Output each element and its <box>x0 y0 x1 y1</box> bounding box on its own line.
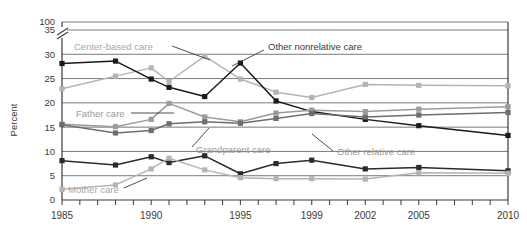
data-point-marker <box>59 86 64 91</box>
data-point-marker <box>149 76 154 81</box>
data-point-marker <box>149 117 154 122</box>
data-point-marker <box>363 82 368 87</box>
svg-text:0: 0 <box>50 194 55 205</box>
annotation-label: Center-based care <box>74 41 153 52</box>
x-axis-tick-labels: 1985199019951999200220052010 <box>51 210 520 221</box>
data-point-marker <box>309 176 314 181</box>
annotation-label: Grandparent care <box>196 144 270 155</box>
data-point-marker <box>202 114 207 119</box>
svg-text:20: 20 <box>44 97 55 108</box>
data-point-marker <box>149 128 154 133</box>
data-point-marker <box>416 107 421 112</box>
series-markers <box>59 54 510 192</box>
series-line-grandparent-care <box>62 113 508 133</box>
data-point-marker <box>273 176 278 181</box>
data-point-marker <box>238 76 243 81</box>
annotation-label: Mother care <box>68 184 119 195</box>
data-point-marker <box>273 161 278 166</box>
series-line-center-based-care <box>62 56 508 97</box>
data-point-marker <box>416 123 421 128</box>
data-point-marker <box>166 121 171 126</box>
data-point-marker <box>273 116 278 121</box>
data-point-marker <box>238 121 243 126</box>
data-point-marker <box>363 114 368 119</box>
svg-text:100: 100 <box>39 16 55 27</box>
annotation-label: Father care <box>76 108 125 119</box>
data-point-marker <box>416 112 421 117</box>
svg-text:10: 10 <box>44 146 55 157</box>
svg-text:15: 15 <box>44 122 55 133</box>
data-point-marker <box>363 177 368 182</box>
annotation-label: Other relative care <box>337 146 415 157</box>
data-point-marker <box>202 94 207 99</box>
data-point-marker <box>59 122 64 127</box>
y-axis-break-icon <box>57 27 68 39</box>
data-point-marker <box>363 166 368 171</box>
y-axis-title: Percent <box>8 103 19 136</box>
data-point-marker <box>505 83 510 88</box>
series-line-other-relative-care <box>62 156 508 174</box>
svg-text:5: 5 <box>50 170 55 181</box>
data-point-marker <box>59 187 64 192</box>
data-point-marker <box>505 110 510 115</box>
data-point-marker <box>113 162 118 167</box>
line-chart: 05101520253035100 1985199019951999200220… <box>0 0 527 242</box>
data-point-marker <box>505 171 510 176</box>
data-point-marker <box>166 85 171 90</box>
y-axis-tick-labels: 05101520253035100 <box>39 16 55 205</box>
data-point-marker <box>166 156 171 161</box>
data-point-marker <box>113 58 118 63</box>
svg-text:1999: 1999 <box>301 210 324 221</box>
data-point-marker <box>202 167 207 172</box>
data-point-marker <box>273 90 278 95</box>
x-axis-ticks <box>62 200 508 205</box>
data-point-marker <box>166 79 171 84</box>
data-point-marker <box>505 104 510 109</box>
data-point-marker <box>273 98 278 103</box>
data-point-marker <box>416 170 421 175</box>
svg-text:1990: 1990 <box>140 210 163 221</box>
svg-text:2010: 2010 <box>497 210 520 221</box>
data-point-marker <box>202 119 207 124</box>
data-point-marker <box>309 158 314 163</box>
chart-container: 05101520253035100 1985199019951999200220… <box>0 0 527 242</box>
svg-text:2002: 2002 <box>354 210 377 221</box>
data-point-marker <box>309 95 314 100</box>
data-point-marker <box>309 111 314 116</box>
data-point-marker <box>59 158 64 163</box>
annotation-label: Other nonrelative care <box>268 41 362 52</box>
data-point-marker <box>416 165 421 170</box>
data-point-marker <box>238 175 243 180</box>
svg-text:30: 30 <box>44 49 55 60</box>
data-point-marker <box>149 166 154 171</box>
data-point-marker <box>363 109 368 114</box>
data-point-marker <box>113 130 118 135</box>
series-lines <box>62 56 508 189</box>
svg-text:2005: 2005 <box>408 210 431 221</box>
svg-text:1995: 1995 <box>229 210 252 221</box>
data-point-marker <box>166 101 171 106</box>
data-point-marker <box>59 61 64 66</box>
data-point-marker <box>149 65 154 70</box>
data-point-marker <box>113 74 118 79</box>
data-point-marker <box>416 83 421 88</box>
svg-text:1985: 1985 <box>51 210 74 221</box>
data-point-marker <box>113 124 118 129</box>
svg-text:25: 25 <box>44 73 55 84</box>
data-point-marker <box>149 154 154 159</box>
data-point-marker <box>273 110 278 115</box>
data-point-marker <box>505 133 510 138</box>
